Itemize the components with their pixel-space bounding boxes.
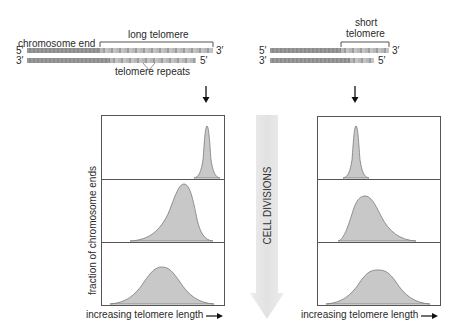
right-arrow-icon bbox=[0, 0, 462, 331]
